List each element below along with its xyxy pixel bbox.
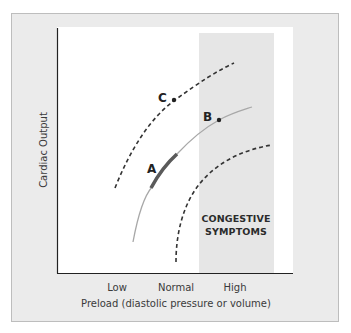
point-b-marker — [217, 118, 221, 122]
tick-normal: Normal — [158, 282, 194, 293]
frank-starling-chart: C B A CONGESTIVE SYMPTOMS Low Normal Hig… — [0, 0, 351, 333]
point-b-label: B — [203, 110, 212, 124]
x-axis-title: Preload (diastolic pressure or volume) — [81, 298, 271, 309]
point-c-label: C — [158, 91, 167, 105]
tick-high: High — [224, 282, 247, 293]
y-axis-title: Cardiac Output — [38, 112, 49, 188]
congestive-region — [199, 33, 274, 273]
tick-low: Low — [107, 282, 127, 293]
point-c-marker — [172, 98, 176, 102]
point-a-label: A — [147, 162, 157, 176]
region-label-line1: CONGESTIVE — [202, 213, 271, 224]
region-label-line2: SYMPTOMS — [205, 226, 267, 237]
